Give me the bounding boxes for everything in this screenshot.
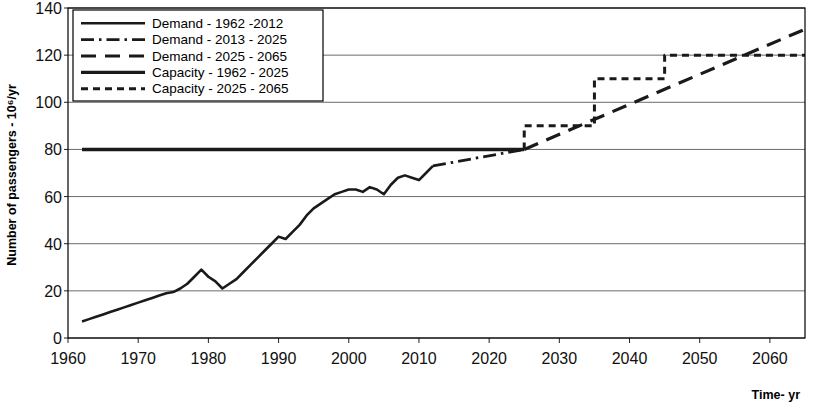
legend: Demand - 1962 -2012Demand - 2013 - 2025D… <box>73 10 323 101</box>
x-tick-2000: 2000 <box>331 350 367 367</box>
y-tick-80: 80 <box>44 141 62 158</box>
legend-label-2: Demand - 2025 - 2065 <box>152 49 287 64</box>
x-tick-2010: 2010 <box>401 350 437 367</box>
y-tick-40: 40 <box>44 236 62 253</box>
x-tick-1970: 1970 <box>120 350 156 367</box>
x-tick-2060: 2060 <box>752 350 788 367</box>
x-tick-2050: 2050 <box>682 350 718 367</box>
x-axis-title: Time- yr <box>752 388 801 402</box>
passenger-demand-capacity-chart: Number of passengers - 10⁶/yr 1401201008… <box>0 0 815 419</box>
x-tick-1990: 1990 <box>261 350 297 367</box>
legend-label-1: Demand - 2013 - 2025 <box>152 32 287 47</box>
series-dash-dot-1 <box>433 149 524 166</box>
y-tick-120: 120 <box>35 47 62 64</box>
x-tick-2040: 2040 <box>612 350 648 367</box>
x-tick-1960: 1960 <box>50 350 86 367</box>
x-tick-1980: 1980 <box>191 350 227 367</box>
y-axis-title: Number of passengers - 10⁶/yr <box>5 84 19 266</box>
series-long-dash-2 <box>524 29 805 149</box>
legend-label-3: Capacity - 1962 - 2025 <box>152 65 289 80</box>
x-tick-2020: 2020 <box>471 350 507 367</box>
y-tick-100: 100 <box>35 94 62 111</box>
x-tick-2030: 2030 <box>542 350 578 367</box>
x-tick-labels: 1960197019801990200020102020203020402050… <box>50 350 788 367</box>
y-tick-140: 140 <box>35 0 62 17</box>
legend-label-0: Demand - 1962 -2012 <box>152 16 283 31</box>
y-tick-20: 20 <box>44 283 62 300</box>
y-tick-labels: 140120100806040200 <box>35 0 68 347</box>
y-tick-0: 0 <box>53 330 62 347</box>
y-tick-60: 60 <box>44 189 62 206</box>
chart-container: Number of passengers - 10⁶/yr 1401201008… <box>0 0 815 419</box>
legend-label-4: Capacity - 2025 - 2065 <box>152 81 289 96</box>
x-tickmarks <box>68 338 770 343</box>
